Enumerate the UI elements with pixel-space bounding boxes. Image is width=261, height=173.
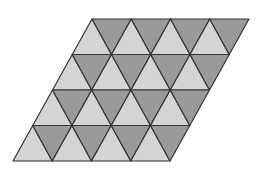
diagram-canvas <box>0 0 261 173</box>
triangle-tiling <box>0 0 261 173</box>
